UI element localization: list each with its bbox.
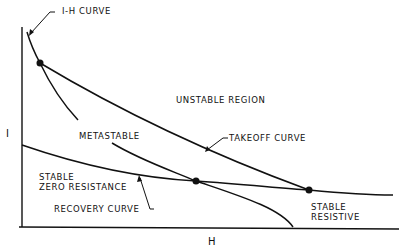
point-takeoff-recovery [306, 187, 313, 194]
ih-curve-leader [31, 12, 55, 33]
point-ih-takeoff [37, 60, 44, 67]
y-axis-label: I [6, 128, 9, 139]
unstable-region-label: UNSTABLE REGION [176, 95, 265, 105]
ih-curve-lower [112, 143, 293, 227]
x-axis-label: H [208, 236, 216, 247]
takeoff-leader [207, 138, 228, 150]
x-axis [19, 227, 399, 229]
stable-zero-label-line2: ZERO RESISTANCE [39, 182, 127, 192]
metastable-label: METASTABLE [79, 131, 140, 141]
takeoff-curve [40, 63, 309, 190]
recovery-arrowhead [137, 175, 142, 182]
recovery-curve-label: RECOVERY CURVE [54, 204, 139, 214]
recovery-leader [140, 178, 154, 209]
stable-resistive-label-line1: STABLE [311, 202, 346, 212]
stable-zero-label-line1: STABLE [39, 172, 74, 182]
takeoff-curve-label: TAKEOFF CURVE [229, 133, 306, 143]
ih-curve-label: I-H CURVE [62, 6, 111, 16]
point-ih-recovery [193, 178, 200, 185]
ih-curve [27, 32, 78, 120]
stable-resistive-label-line2: RESISTIVE [311, 212, 360, 222]
